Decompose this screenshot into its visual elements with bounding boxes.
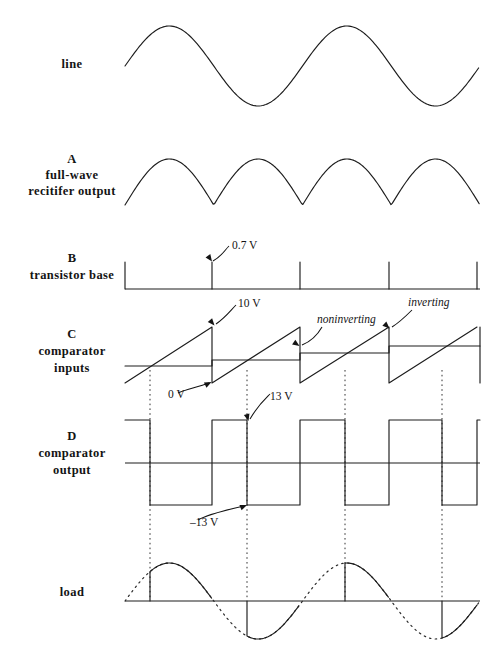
row-label-rectifier-line2: full-wave [46,168,99,182]
row-label-rectifier: A [67,152,76,166]
row-label-comparator-inputs: C [67,327,76,341]
annotation-0v: 0 V [168,388,185,400]
annotation-inverting: inverting [408,296,450,309]
row-label-comparator-output-line3: output [53,463,91,477]
annotation-13v: 13 V [270,390,293,402]
annotation-noninverting: noninverting [317,313,376,326]
row-label-comparator-inputs-line2: comparator [38,344,105,358]
row-label-rectifier-line3: recitifer output [28,184,116,198]
row-label-comparator-output: D [67,429,76,443]
row-label-comparator-inputs-line3: inputs [54,361,90,375]
waveform-figure: line A full-wave recitifer output B tran… [0,0,502,662]
row-label-load: load [60,585,85,599]
annotation-0p7v: 0.7 V [232,239,258,251]
annotation-10v: 10 V [238,297,261,309]
row-label-transistor-base-line2: transistor base [30,268,115,282]
row-label-line: line [61,57,82,71]
row-label-comparator-output-line2: comparator [38,446,105,460]
annotation-minus-13v: –13 V [189,516,219,528]
row-label-transistor-base: B [68,251,77,265]
